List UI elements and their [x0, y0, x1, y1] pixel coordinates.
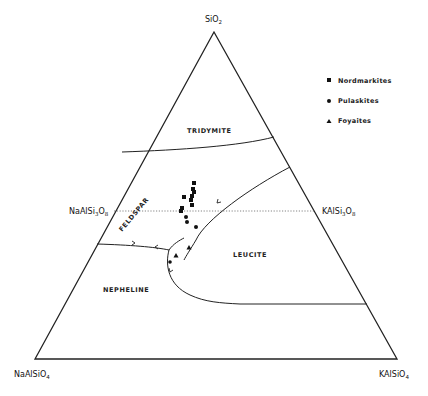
join-label-kalsi3o8: KAlSi3O8 — [322, 207, 356, 217]
reaction-connector — [169, 238, 184, 250]
leucite-nepheline-boundary — [167, 250, 367, 304]
pulaskite-points — [168, 215, 198, 264]
field-label-leucite: LEUCITE — [233, 251, 267, 259]
tridymite-boundary — [122, 137, 274, 152]
vertex-label-naalsio4: NaAlSiO4 — [14, 370, 50, 380]
vertex-label-sio2: SiO2 — [205, 15, 222, 25]
vertex-label-kalsio4: KAlSiO4 — [379, 370, 409, 380]
arrow-icons — [132, 199, 221, 272]
square-icon — [327, 78, 331, 82]
field-label-feldspar: FELDSPAR — [117, 196, 150, 233]
legend: Nordmarkites Pulaskites Foyaites — [327, 77, 392, 125]
feldspar-leucite-boundary — [184, 167, 290, 260]
legend-label-pulaskites: Pulaskites — [338, 97, 379, 105]
triangle-icon — [327, 119, 332, 123]
circle-icon — [327, 99, 331, 103]
ternary-diagram: SiO2 NaAlSiO4 KAlSiO4 NaAlSi3O8 KAlSi3O8… — [0, 0, 428, 396]
nordmarkite-points — [179, 181, 196, 213]
join-label-naalsi3o8: NaAlSi3O8 — [69, 207, 109, 217]
nepheline-feldspar-boundary — [97, 244, 169, 250]
field-label-nepheline: NEPHELINE — [103, 286, 149, 294]
legend-label-nordmarkites: Nordmarkites — [338, 77, 392, 85]
legend-label-foyaites: Foyaites — [338, 117, 371, 125]
field-label-tridymite: TRIDYMITE — [187, 127, 232, 135]
